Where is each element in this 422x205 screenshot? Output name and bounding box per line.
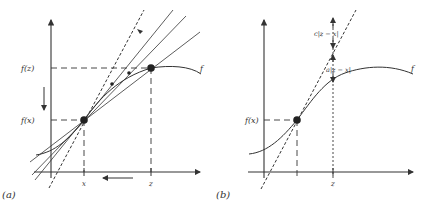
- caption-a: (a): [2, 189, 16, 200]
- label-fz: f(z): [20, 64, 34, 73]
- tick-label-x: x: [82, 180, 86, 188]
- rotation-arrow-icon: [137, 29, 143, 34]
- bound-line-dotted: [261, 10, 356, 189]
- secant-line-1: [35, 10, 173, 180]
- point-fx: [293, 116, 301, 124]
- point-mid-2: [127, 71, 131, 75]
- tangent-line-dotted: [49, 10, 144, 188]
- caption-b: (b): [216, 189, 230, 200]
- lower-bound-label: a|z − x|: [326, 66, 351, 74]
- point-fz: [147, 64, 155, 72]
- panel-a: f(z) f(x) x z f (a): [2, 10, 205, 200]
- label-fx: f(x): [20, 116, 35, 125]
- curve-label-f: f: [410, 64, 416, 73]
- upper-bound-label: c|z − x|: [314, 30, 339, 38]
- secant-line-2: [32, 16, 186, 175]
- curve-f: [36, 66, 201, 155]
- panel-b: c|z − x| a|z − x| f(x) z f (b): [216, 10, 416, 200]
- curve-label-f: f: [199, 64, 205, 73]
- point-fx: [80, 116, 88, 124]
- label-fx: f(x): [244, 116, 259, 125]
- curve-f: [249, 67, 413, 154]
- secant-line-3: [30, 32, 200, 162]
- tick-label-z: z: [330, 180, 335, 188]
- point-mid-1: [110, 82, 114, 86]
- figure: f(z) f(x) x z f (a) c|z − x| a|z − x| f(…: [0, 0, 422, 205]
- tick-label-z: z: [148, 180, 153, 188]
